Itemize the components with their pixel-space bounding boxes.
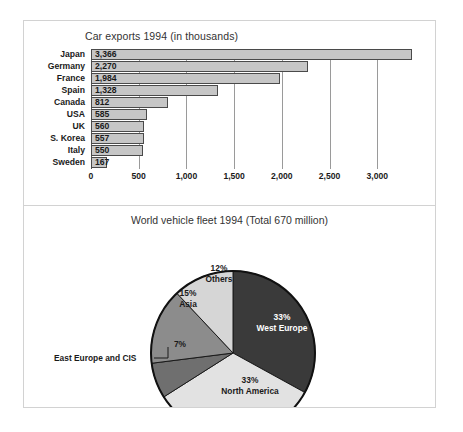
bar-row: S. Korea557 [30, 133, 430, 144]
pie-callout-label: East Europe and CIS [54, 353, 136, 363]
bar-rect [91, 49, 412, 60]
pie-slice-percent: 33% [256, 312, 307, 323]
bar-category-label: Italy [30, 145, 85, 156]
bar-category-label: France [30, 73, 85, 84]
bar-value-label: 2,270 [95, 61, 117, 72]
pie-slice-percent: 33% [221, 375, 278, 386]
bar-track: 167 [91, 157, 425, 168]
figure-frame: Car exports 1994 (in thousands) Japan3,3… [23, 20, 436, 408]
bar-row: Sweden167 [30, 157, 430, 168]
pie-slice-label: 33%North America [221, 375, 278, 396]
pie-slice-percent: 7% [174, 339, 186, 350]
x-tick-label: 2,000 [271, 171, 293, 181]
pie-chart-panel: World vehicle fleet 1994 (Total 670 mill… [24, 206, 435, 407]
pie-slice-label: 15%Asia [179, 288, 197, 309]
bar-chart-title: Car exports 1994 (in thousands) [85, 30, 238, 42]
bar-track: 585 [91, 109, 425, 120]
x-tick-label: 2,500 [319, 171, 341, 181]
x-tick-label: 3,000 [367, 171, 389, 181]
bar-chart-plot-area: Japan3,366Germany2,270France1,984Spain1,… [30, 49, 430, 169]
bar-value-label: 167 [95, 157, 109, 168]
bar-track: 557 [91, 133, 425, 144]
bar-category-label: Sweden [30, 157, 85, 168]
bar-value-label: 1,328 [95, 85, 117, 96]
x-tick-label: 1,500 [223, 171, 245, 181]
bar-value-label: 557 [95, 133, 109, 144]
bar-track: 812 [91, 97, 425, 108]
bar-row: USA585 [30, 109, 430, 120]
bar-row: Germany2,270 [30, 61, 430, 72]
pie-slice-name: North America [221, 385, 278, 396]
bar-chart-panel: Car exports 1994 (in thousands) Japan3,3… [24, 21, 435, 206]
bar-value-label: 585 [95, 109, 109, 120]
pie-slice-label: 33%West Europe [256, 312, 307, 333]
bar-value-label: 812 [95, 97, 109, 108]
bar-rect [91, 61, 308, 72]
bar-value-label: 3,366 [95, 49, 117, 60]
bar-row: Italy550 [30, 145, 430, 156]
bar-category-label: Spain [30, 85, 85, 96]
bar-track: 1,328 [91, 85, 425, 96]
bar-track: 1,984 [91, 73, 425, 84]
bar-category-label: Germany [30, 61, 85, 72]
bar-track: 550 [91, 145, 425, 156]
bar-category-label: USA [30, 109, 85, 120]
pie-slice-percent: 12% [206, 263, 233, 274]
bar-value-label: 560 [95, 121, 109, 132]
bar-category-label: Canada [30, 97, 85, 108]
x-tick-label: 0 [89, 171, 94, 181]
pie-slice-name: Others [206, 273, 233, 284]
pie-slice-name: West Europe [256, 322, 307, 333]
bar-row: Japan3,366 [30, 49, 430, 60]
bar-track: 560 [91, 121, 425, 132]
bar-row: Canada812 [30, 97, 430, 108]
x-tick-label: 500 [132, 171, 146, 181]
bar-chart-x-axis: 05001,0001,5002,0002,5003,000 [30, 171, 430, 185]
bar-rect [91, 73, 280, 84]
pie-slice-label: 7% [174, 339, 186, 350]
pie-slice-name: Asia [179, 298, 197, 309]
pie-slice-percent: 15% [179, 288, 197, 299]
pie-slice-label: 12%Others [206, 263, 233, 284]
bar-category-label: Japan [30, 49, 85, 60]
bar-value-label: 1,984 [95, 73, 117, 84]
bar-row: France1,984 [30, 73, 430, 84]
bar-category-label: UK [30, 121, 85, 132]
bar-value-label: 550 [95, 145, 109, 156]
bar-track: 2,270 [91, 61, 425, 72]
x-tick-label: 1,000 [176, 171, 198, 181]
bar-row: UK560 [30, 121, 430, 132]
bar-row: Spain1,328 [30, 85, 430, 96]
bar-track: 3,366 [91, 49, 425, 60]
bar-category-label: S. Korea [30, 133, 85, 144]
